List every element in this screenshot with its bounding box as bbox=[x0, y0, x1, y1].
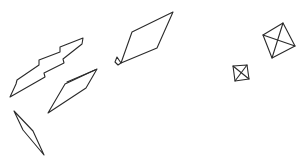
rhombus-with-cap-stroke bbox=[121, 12, 173, 63]
large-square-with-diagonals-shape bbox=[263, 23, 295, 58]
lightning-bolt-shape bbox=[10, 38, 83, 97]
rhombus-with-cap-stroke bbox=[115, 57, 121, 65]
thin-diamond-stroke bbox=[14, 111, 44, 155]
rhombus-with-cap-shape bbox=[115, 12, 173, 65]
thin-diamond-shape bbox=[14, 111, 44, 155]
drawing-canvas bbox=[0, 0, 304, 166]
small-square-with-diagonals-shape bbox=[233, 65, 249, 81]
thin-quad-shape bbox=[48, 69, 97, 113]
thin-quad-stroke bbox=[48, 69, 97, 113]
small-square-with-diagonals-stroke bbox=[235, 65, 247, 81]
lightning-bolt-stroke bbox=[10, 38, 83, 97]
